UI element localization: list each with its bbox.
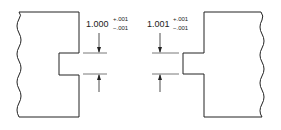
arrow-down-icon <box>158 47 162 53</box>
left-part-outline <box>17 12 79 117</box>
right-part-outline <box>183 12 264 117</box>
left-part <box>17 12 79 117</box>
arrow-down-icon <box>97 47 101 53</box>
right-part <box>183 12 264 117</box>
right-nominal-value: 1.001 <box>147 19 170 29</box>
arrow-up-icon <box>158 74 162 80</box>
right-tolerance-plus: +.001 <box>173 16 189 22</box>
left-dimension: 1.000 +.001 −.001 <box>83 16 129 92</box>
right-tolerance-minus: −.001 <box>173 25 189 31</box>
left-tolerance-plus: +.001 <box>113 16 129 22</box>
arrow-up-icon <box>97 74 101 80</box>
tolerance-diagram: 1.000 +.001 −.001 1.001 +.001 −.001 <box>0 0 281 130</box>
left-tolerance-minus: −.001 <box>113 25 129 31</box>
left-nominal-value: 1.000 <box>86 19 109 29</box>
